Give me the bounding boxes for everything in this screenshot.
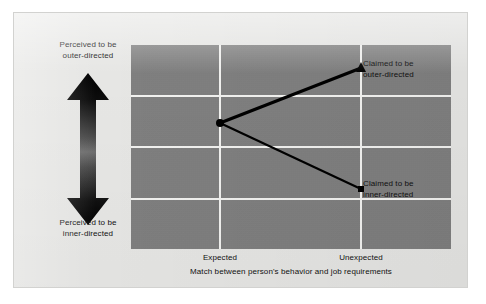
series-line-outer-directed [220, 68, 361, 123]
annotation-inner-directed: Claimed to be inner-directed [363, 179, 414, 200]
series-line-inner-directed [220, 123, 361, 189]
y-axis-top-label-line1: Perceived to be [44, 39, 132, 50]
annotation-outer-directed: Claimed to be outer-directed [363, 59, 414, 80]
y-axis-top-label: Perceived to be outer-directed [44, 39, 132, 61]
annotation-inner-line1: Claimed to be [363, 179, 414, 190]
x-axis-title: Match between person's behavior and job … [131, 267, 451, 276]
y-axis-bottom-label-line2: inner-directed [44, 228, 132, 239]
x-axis-tick-expected: Expected [170, 253, 270, 262]
y-axis-bottom-label-line1: Perceived to be [44, 217, 132, 228]
y-axis-bottom-label: Perceived to be inner-directed [44, 217, 132, 239]
y-axis-top-label-line2: outer-directed [44, 50, 132, 61]
series-origin-marker [216, 119, 224, 127]
y-axis: Perceived to be outer-directed [44, 39, 132, 239]
annotation-outer-line1: Claimed to be [363, 59, 414, 70]
annotation-outer-line2: outer-directed [363, 70, 414, 81]
x-axis-tick-unexpected: Unexpected [311, 253, 411, 262]
figure-panel: Perceived to be outer-directed [13, 12, 468, 288]
annotation-inner-line2: inner-directed [363, 190, 414, 201]
double-headed-vertical-arrow-icon [64, 73, 112, 225]
figure-root: Perceived to be outer-directed [0, 0, 486, 304]
plot-area: Claimed to be outer-directed Claimed to … [131, 45, 451, 249]
